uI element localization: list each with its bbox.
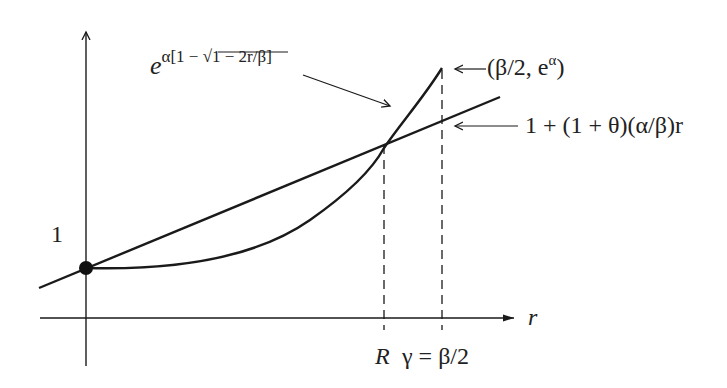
- x-tick-label-gamma: γ = β/2: [402, 344, 469, 368]
- x-axis-label: r: [528, 305, 537, 329]
- exponential-label-pointer: [303, 75, 390, 106]
- y-tick-label-one: 1: [51, 222, 63, 246]
- x-tick-label-r: R: [375, 344, 390, 368]
- endpoint-label: (β/2, eα): [487, 55, 564, 79]
- endpoint-label-sup: α: [549, 52, 557, 68]
- linear-function-line: [39, 97, 500, 288]
- linear-function-label-text: 1 + (1 + θ)(α/β)r: [525, 112, 683, 138]
- exponential-curve: [86, 68, 442, 268]
- endpoint-label-close: ): [556, 54, 564, 80]
- exponential-label-exponent: α[1 − √1 − 2r/β]: [162, 47, 272, 66]
- endpoint-label-base: (β/2, e: [487, 54, 549, 80]
- exponential-label-base: e: [150, 51, 162, 80]
- start-point-dot: [79, 261, 93, 275]
- linear-function-label: 1 + (1 + θ)(α/β)r: [525, 113, 683, 137]
- exponential-curve-label: eα[1 − √1 − 2r/β]: [150, 53, 272, 79]
- diagram-canvas: [0, 0, 727, 388]
